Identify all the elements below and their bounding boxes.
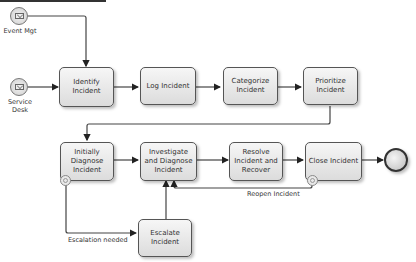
- task-categorize-incident[interactable]: Categorize Incident: [223, 67, 278, 105]
- task-investigate-diagnose-incident[interactable]: Investigate and Diagnose Incident: [140, 142, 197, 181]
- start-event-service-desk[interactable]: [10, 78, 28, 96]
- service-desk-label-line1: Service: [2, 98, 38, 106]
- start-event-event-mgt[interactable]: [10, 7, 28, 25]
- end-event-icon[interactable]: [384, 148, 408, 172]
- service-desk-label-line2: Desk: [2, 106, 38, 114]
- task-prioritize-incident[interactable]: Prioritize Incident: [303, 67, 358, 105]
- sequence-flows: [0, 0, 416, 262]
- task-log-incident[interactable]: Log Incident: [140, 67, 196, 105]
- message-envelope-icon: [15, 13, 24, 19]
- boundary-event-reopen[interactable]: [307, 175, 318, 186]
- reopen-incident-label: Reopen Incident: [247, 190, 300, 198]
- task-identify-incident[interactable]: Identify Incident: [59, 67, 114, 107]
- event-mgt-label: Event Mgt: [2, 27, 38, 35]
- service-desk-label: Service Desk: [2, 98, 38, 114]
- message-envelope-icon: [15, 84, 24, 90]
- escalation-needed-label: Escalation needed: [68, 236, 128, 244]
- task-escalate-incident[interactable]: Escalate Incident: [138, 219, 192, 257]
- boundary-event-escalation[interactable]: [60, 175, 71, 186]
- task-resolve-incident-recover[interactable]: Resolve Incident and Recover: [229, 142, 283, 181]
